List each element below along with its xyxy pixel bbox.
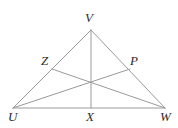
vertex-label-Z: Z xyxy=(41,54,48,67)
geometry-figure: V Z P U X W xyxy=(0,0,178,128)
segment-layer xyxy=(13,30,165,108)
vertex-label-X: X xyxy=(86,110,94,123)
vertex-label-V: V xyxy=(85,11,93,24)
median-UP xyxy=(13,69,130,108)
vertex-label-P: P xyxy=(130,54,138,67)
vertex-label-U: U xyxy=(8,110,17,123)
side-VW xyxy=(91,30,165,108)
vertex-label-W: W xyxy=(160,110,171,123)
median-WZ xyxy=(52,69,165,108)
